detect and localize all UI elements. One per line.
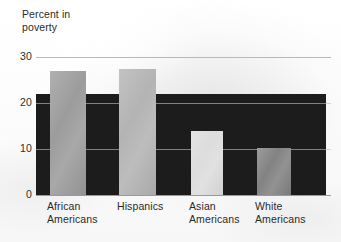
bar-surface: [50, 71, 86, 195]
bar-surface: [191, 131, 223, 195]
bar-asian-americans: [191, 131, 223, 195]
bar-hispanics: [119, 69, 156, 196]
bar-surface: [257, 148, 291, 195]
y-tick-label-0: 0: [12, 189, 32, 200]
x-category-label-hispanics: Hispanics: [117, 200, 163, 213]
x-category-label-white-americans: White Americans: [255, 200, 306, 225]
bar-african-americans: [50, 71, 86, 195]
y-tick-label-20: 20: [12, 97, 32, 108]
bar-white-americans: [257, 148, 291, 195]
gridline-30: [36, 57, 331, 58]
y-tick-label-10: 10: [12, 143, 32, 154]
y-tick-label-30: 30: [12, 51, 32, 62]
poverty-bar-chart: Percent in poverty 0102030African Americ…: [0, 0, 341, 242]
x-category-label-asian-americans: Asian Americans: [189, 200, 240, 225]
bar-surface: [119, 69, 156, 196]
x-category-label-african-americans: African Americans: [47, 200, 98, 225]
axis-baseline: [36, 195, 331, 196]
plot-area: 0102030African AmericansHispanicsAsian A…: [0, 0, 341, 242]
